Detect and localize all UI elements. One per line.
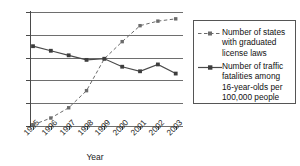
y-tick-mark xyxy=(26,35,31,36)
y-tick-mark xyxy=(26,103,31,104)
gridline xyxy=(31,80,183,81)
x-axis-title: Year xyxy=(0,152,190,162)
plot-area xyxy=(31,12,183,126)
gridline xyxy=(31,35,183,36)
legend-label-states: Number of states with graduated license … xyxy=(222,27,285,58)
legend-swatch-solid-line-icon xyxy=(198,62,222,73)
y-axis-line xyxy=(30,11,31,127)
y-tick-mark xyxy=(26,58,31,59)
gridline xyxy=(31,12,183,13)
legend-swatch-dashed-line-icon xyxy=(198,28,222,39)
x-tick-label: 1995 xyxy=(22,118,41,137)
legend-label-fatalities: Number of traffic fatalities among 16-ye… xyxy=(222,61,283,103)
legend-item-states[interactable]: Number of states with graduated license … xyxy=(198,27,294,58)
gridline xyxy=(31,58,183,59)
chart-legend: Number of states with graduated license … xyxy=(193,20,296,104)
y-tick-mark xyxy=(26,80,31,81)
gridline xyxy=(31,103,183,104)
legend-item-fatalities[interactable]: Number of traffic fatalities among 16-ye… xyxy=(198,61,294,103)
chart-figure: 01020304050 1995199619971998199920002001… xyxy=(0,0,300,166)
y-tick-mark xyxy=(26,12,31,13)
